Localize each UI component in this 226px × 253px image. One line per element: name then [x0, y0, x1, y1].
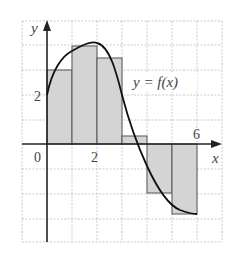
riemann-sum-diagram: y x 0 2 6 2 y = f(x) [0, 0, 226, 253]
x-axis-arrow-icon [211, 140, 222, 148]
rectangle-3 [97, 58, 122, 144]
x-tick-2-label: 2 [91, 150, 98, 165]
rectangle-2 [72, 46, 97, 144]
y-tick-2-label: 2 [34, 89, 41, 104]
curve-label: y = f(x) [131, 74, 178, 91]
y-axis-arrow-icon [43, 20, 51, 31]
y-axis-label: y [29, 20, 38, 36]
origin-label: 0 [34, 150, 41, 165]
riemann-rectangles [47, 46, 197, 214]
x-axis-label: x [211, 150, 219, 166]
rectangle-6 [172, 144, 197, 214]
x-tick-6-label: 6 [193, 127, 200, 142]
rectangle-5 [147, 144, 172, 193]
